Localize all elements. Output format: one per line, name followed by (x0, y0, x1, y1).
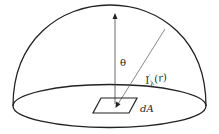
arrow-down-left-icon (116, 102, 121, 109)
hemisphere-base-ellipse (13, 85, 206, 128)
radiance-argument: (r) (153, 71, 167, 84)
hemisphere-diagram: θ I ′ λ (r) dA (0, 0, 219, 134)
theta-label: θ (120, 57, 126, 68)
arrow-up-icon (113, 13, 118, 19)
area-label: dA (140, 103, 154, 114)
